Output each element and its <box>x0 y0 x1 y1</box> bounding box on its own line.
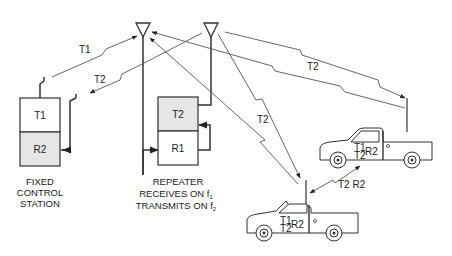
repeater-caption-2: RECEIVES ON f1 <box>139 188 213 200</box>
link-truck-to-truck-label: T2 R2 <box>338 179 366 190</box>
fixed-t1-label: T1 <box>34 110 46 121</box>
link-repeater-to-fixed-upper <box>150 33 202 60</box>
repeater: T2 R1 <box>158 97 198 165</box>
repeater-tx-antenna-icon <box>198 23 218 105</box>
link-fixed-to-repeater-label: T1 <box>79 44 91 55</box>
link-repeater-to-lower-truck <box>218 34 300 178</box>
repeater-caption-3: TRANSMITS ON f2 <box>136 200 217 212</box>
fixed-rx-antenna-icon <box>61 94 76 150</box>
upper-truck-r2: R2 <box>365 146 378 157</box>
link-repeater-to-upper-truck-label: T2 <box>307 61 319 72</box>
repeater-rx-wire <box>143 150 158 175</box>
fixed-control-station: T1 R2 <box>20 98 60 166</box>
fixed-caption-2: CONTROL <box>17 187 63 198</box>
repeater-caption-1: REPEATER <box>153 176 204 187</box>
fixed-r2-label: R2 <box>34 144 47 155</box>
upper-truck: T1 T2 R2 <box>320 98 432 168</box>
link-fixed-to-repeater <box>52 36 137 77</box>
link-repeater-to-lower-truck-label: T2 <box>257 114 269 125</box>
repeater-loop-wire <box>198 125 210 150</box>
fixed-tx-antenna-icon <box>40 77 44 98</box>
fixed-caption-1: FIXED <box>26 176 54 187</box>
link-repeater-to-fixed-label: T2 <box>94 74 106 85</box>
repeater-diagram: T2 R1 REPEATER RECEIVES ON f1 TRANSMITS … <box>0 0 452 256</box>
fixed-caption-3: STATION <box>20 198 60 209</box>
repeater-r1-label: R1 <box>172 143 185 154</box>
repeater-t2-label: T2 <box>172 109 184 120</box>
lower-truck-r2: R2 <box>291 219 304 230</box>
